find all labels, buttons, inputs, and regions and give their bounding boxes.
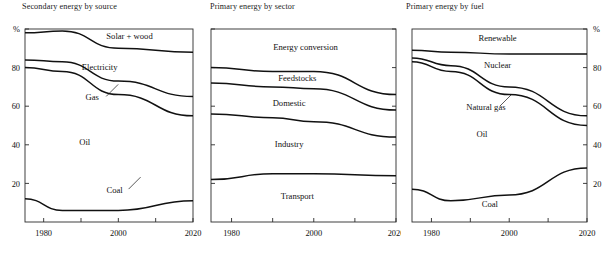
y-tick-label: 60 (12, 102, 20, 111)
x-tick-label: 2000 (501, 229, 518, 238)
boundary-curve (412, 62, 587, 126)
energy-charts-figure: Secondary energy by source 1980200020202… (0, 0, 613, 258)
chart-panel-primary-energy-by-sector: Primary energy by sector 198020002020Ene… (205, 0, 401, 258)
series-label: Transport (281, 191, 315, 201)
y-tick-label: 20 (593, 180, 601, 189)
x-tick-label: 2020 (388, 229, 401, 238)
series-label: Renewable (478, 33, 516, 43)
x-tick-label: 1980 (35, 229, 52, 238)
x-tick-label: 1980 (223, 229, 240, 238)
boundary-curve (412, 168, 587, 201)
y-tick-label: 20 (12, 180, 20, 189)
y-tick-label: 60 (593, 102, 601, 111)
series-label: Coal (106, 185, 123, 195)
series-label: Oil (79, 137, 91, 147)
y-tick-label: 80 (12, 64, 20, 73)
boundary-curve (25, 68, 193, 116)
y-tick-label: 80 (593, 64, 601, 73)
series-label: Oil (477, 129, 489, 139)
x-tick-label: 2020 (579, 229, 596, 238)
label-leader-line (129, 177, 141, 189)
x-tick-label: 1980 (423, 229, 440, 238)
series-label: Nuclear (484, 60, 511, 70)
x-tick-label: 2000 (110, 229, 127, 238)
plot-area-0: 19802000202020406080%Solar + woodElectri… (0, 0, 205, 258)
y-tick-label: % (593, 25, 600, 34)
boundary-curve (412, 50, 587, 54)
boundary-curve (211, 114, 396, 137)
x-tick-label: 2000 (305, 229, 322, 238)
chart-panel-secondary-energy-by-source: Secondary energy by source 1980200020202… (0, 0, 205, 258)
series-label: Gas (86, 92, 100, 102)
series-label: Solar + wood (106, 31, 153, 41)
y-tick-label: 40 (12, 141, 20, 150)
y-tick-label: 40 (593, 141, 601, 150)
chart-panel-primary-energy-by-fuel: Primary energy by fuel 19802000202020406… (401, 0, 613, 258)
series-label: Industry (275, 139, 304, 149)
x-tick-label: 2020 (185, 229, 202, 238)
chart-frame (412, 29, 587, 222)
series-label: Natural gas (466, 102, 506, 112)
series-label: Feedstocks (278, 73, 317, 83)
series-label: Energy conversion (273, 42, 338, 52)
boundary-curve (25, 199, 193, 211)
plot-area-2: 19802000202020406080%RenewableNuclearNat… (401, 0, 613, 258)
boundary-curve (211, 174, 396, 180)
plot-area-1: 198020002020Energy conversionFeedstocksD… (205, 0, 401, 258)
series-label: Domestic (273, 98, 306, 108)
y-tick-label: % (13, 25, 20, 34)
series-label: Coal (482, 199, 499, 209)
series-label: Electricity (82, 62, 118, 72)
